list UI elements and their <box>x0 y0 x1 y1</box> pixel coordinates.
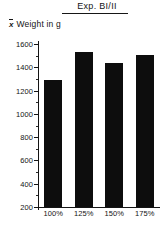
bar-chart-figure: Exp. BI/II x Weight in g 200400600800100… <box>0 0 164 232</box>
x-axis-tick-label: 150% <box>104 209 124 218</box>
y-axis-label-text: Weight in g <box>16 19 61 29</box>
y-axis-minor-tick <box>36 149 39 150</box>
mean-symbol: x <box>9 21 13 29</box>
y-axis-tick <box>34 137 38 138</box>
y-axis-tick-label: 600 <box>20 156 33 165</box>
y-axis-tick-label: 800 <box>20 133 33 142</box>
chart-title: Exp. BI/II <box>62 1 132 11</box>
plot-area: 2004006008001000120014001600 <box>38 44 160 207</box>
y-axis-tick <box>34 67 38 68</box>
x-axis-tick-label: 100% <box>43 209 63 218</box>
y-axis-tick <box>34 114 38 115</box>
bar <box>105 63 123 207</box>
bar <box>75 52 93 207</box>
y-axis-tick-label: 400 <box>20 179 33 188</box>
y-axis-tick <box>34 184 38 185</box>
title-underline <box>62 13 128 14</box>
y-axis-tick-label: 1400 <box>16 63 33 72</box>
y-axis-minor-tick <box>36 195 39 196</box>
y-axis-tick <box>34 207 38 208</box>
x-axis-tick-label: 175% <box>135 209 155 218</box>
y-axis-tick <box>34 160 38 161</box>
x-axis-tick-label: 125% <box>74 209 94 218</box>
y-axis-tick-label: 1200 <box>16 86 33 95</box>
y-axis-minor-tick <box>36 126 39 127</box>
y-axis-minor-tick <box>36 102 39 103</box>
bar <box>44 80 62 207</box>
y-axis-tick <box>34 91 38 92</box>
y-axis-minor-tick <box>36 56 39 57</box>
y-axis-tick-label: 1600 <box>16 40 33 49</box>
bar <box>136 55 154 207</box>
y-axis-minor-tick <box>36 79 39 80</box>
y-axis-minor-tick <box>36 172 39 173</box>
y-axis-tick <box>34 44 38 45</box>
y-axis-tick-label: 200 <box>20 203 33 212</box>
y-axis-tick-label: 1000 <box>16 109 33 118</box>
y-axis-label: x Weight in g <box>9 19 61 29</box>
